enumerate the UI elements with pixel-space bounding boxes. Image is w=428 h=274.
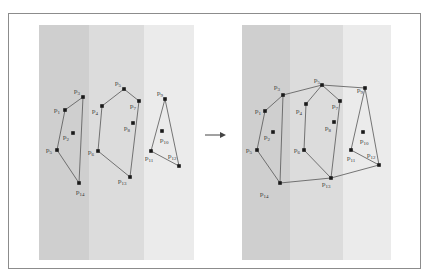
point-marker: [81, 95, 85, 99]
point-marker: [377, 163, 381, 167]
point-marker: [149, 149, 153, 153]
point-marker: [96, 149, 100, 153]
right-stripe-1: [242, 25, 290, 260]
point-marker: [332, 120, 336, 124]
right-panel: p3p1p2p5p14p5p4p7p8p6p13p9p10p11p12: [242, 25, 391, 260]
point-marker: [63, 108, 67, 112]
point-marker: [363, 86, 367, 90]
point-marker: [302, 148, 306, 152]
point-marker: [304, 102, 308, 106]
point-marker: [137, 99, 141, 103]
left-stripe-2: [89, 25, 144, 260]
point-marker: [128, 175, 132, 179]
point-marker: [281, 93, 285, 97]
arrow-icon: [205, 132, 226, 138]
point-marker: [255, 148, 259, 152]
point-marker: [131, 121, 135, 125]
left-panel: p3p1p2p5p14p5p4p7p8p6p13p9p10p11p12: [39, 25, 194, 260]
point-marker: [55, 148, 59, 152]
left-stripe-3: [144, 25, 194, 260]
point-marker: [361, 130, 365, 134]
point-marker: [263, 109, 267, 113]
point-marker: [320, 83, 324, 87]
point-marker: [338, 99, 342, 103]
convex-hull-diagram: p3p1p2p5p14p5p4p7p8p6p13p9p10p11p12 p3p1…: [0, 0, 428, 274]
point-marker: [160, 129, 164, 133]
point-marker: [177, 164, 181, 168]
point-marker: [349, 148, 353, 152]
point-marker: [278, 181, 282, 185]
point-marker: [77, 181, 81, 185]
point-marker: [271, 130, 275, 134]
point-marker: [163, 97, 167, 101]
point-marker: [122, 87, 126, 91]
point-marker: [100, 104, 104, 108]
left-stripe-1: [39, 25, 89, 260]
point-marker: [329, 176, 333, 180]
point-marker: [71, 131, 75, 135]
